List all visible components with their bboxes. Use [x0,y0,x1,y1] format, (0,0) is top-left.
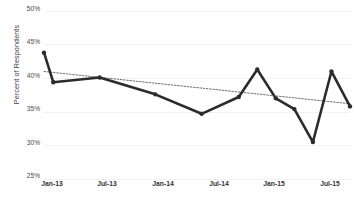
plot-area [44,8,350,176]
x-tick-label-jul-13: Jul-13 [77,180,137,187]
gridline-30 [44,145,350,146]
gridline-40 [44,78,350,79]
gridline-25 [44,179,350,180]
y-tick-label-30: 30% [12,139,40,146]
y-tick-label-45: 45% [12,38,40,45]
gridline-50 [44,11,350,12]
y-tick-label-35: 35% [12,105,40,112]
gridline-35 [44,112,350,113]
y-tick-label-25: 25% [12,172,40,179]
gridline-45 [44,44,350,45]
x-tick-label-jan-15: Jan-15 [244,180,304,187]
x-tick-label-jan-13: Jan-13 [22,180,82,187]
y-tick-label-40: 40% [12,72,40,79]
x-tick-label-jan-14: Jan-14 [133,180,193,187]
x-tick-label-jul-14: Jul-14 [189,180,249,187]
y-tick-label-50: 50% [12,5,40,12]
x-tick-label-jul-15: Jul-15 [300,180,354,187]
chart-container: Percent of Respondents 50% 45% 40% 35% 3… [0,0,354,199]
